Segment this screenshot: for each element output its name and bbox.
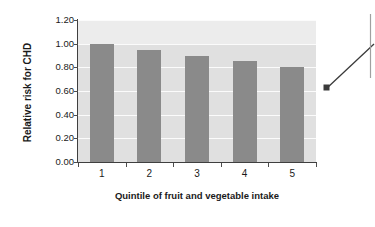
bar — [185, 56, 209, 163]
x-tick-label: 3 — [177, 168, 217, 179]
bar — [90, 44, 114, 162]
y-tick-label: 1.20 — [42, 15, 74, 25]
x-tick-mark — [268, 163, 269, 167]
x-tick-mark — [126, 163, 127, 167]
x-tick-mark — [78, 163, 79, 167]
x-axis-title: Quintile of fruit and vegetable intake — [78, 190, 316, 201]
y-tick-mark — [74, 115, 78, 116]
y-tick-mark — [74, 91, 78, 92]
y-tick-label: 0.20 — [42, 134, 74, 144]
chart-figure: Relative risk for CHD 0.000.200.400.600.… — [0, 0, 375, 227]
x-tick-label: 4 — [225, 168, 265, 179]
y-axis-title: Relative risk for CHD — [22, 13, 33, 173]
y-tick-mark — [74, 138, 78, 139]
y-tick-label: 1.00 — [42, 39, 74, 49]
x-tick-mark — [316, 163, 317, 167]
y-tick-label: 0.00 — [42, 157, 74, 167]
x-tick-mark — [173, 163, 174, 167]
bar — [280, 67, 304, 162]
x-tick-label: 2 — [129, 168, 169, 179]
annotation-leader-line — [327, 44, 374, 88]
y-tick-label: 0.40 — [42, 110, 74, 120]
y-tick-mark — [74, 44, 78, 45]
y-tick-mark — [74, 20, 78, 21]
x-axis-tick-labels: 12345 — [78, 168, 316, 182]
bar — [233, 61, 257, 162]
x-tick-label: 1 — [82, 168, 122, 179]
plot-area — [78, 20, 316, 162]
y-tick-label: 0.80 — [42, 63, 74, 73]
x-tick-mark — [221, 163, 222, 167]
y-tick-mark — [74, 67, 78, 68]
x-axis-line — [77, 162, 317, 163]
bar-series — [78, 20, 316, 162]
y-tick-label: 0.60 — [42, 86, 74, 96]
bar — [137, 50, 161, 162]
x-tick-label: 5 — [272, 168, 312, 179]
y-axis-tick-labels: 0.000.200.400.600.801.001.20 — [42, 20, 74, 162]
annotation-marker-square — [324, 85, 330, 91]
